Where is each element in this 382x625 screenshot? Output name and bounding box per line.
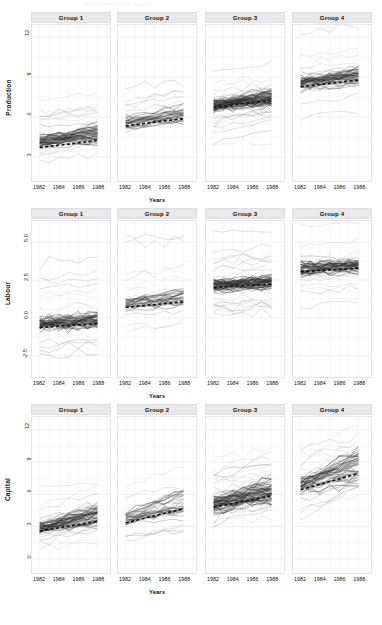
y-axis-title: Production: [2, 12, 14, 182]
x-axis-title: Years: [117, 393, 197, 399]
panel-labour-group-1[interactable]: Group 11982198419861988: [31, 208, 111, 390]
plot-area[interactable]: [31, 220, 111, 378]
y-tick-label: 6: [14, 111, 30, 119]
x-axis-title: Years: [117, 589, 197, 595]
y-axis-title-text: Labour: [5, 281, 12, 304]
panel-strip-label: Group 1: [59, 15, 83, 21]
panel-row-production: Production12963Group 11982198419861988Gr…: [0, 12, 382, 220]
panel-production-group-4[interactable]: Group 41982198419861988: [292, 12, 372, 194]
x-tick-label: 1982: [119, 184, 131, 190]
y-tick-label: 0: [14, 554, 30, 562]
x-tick-label: 1988: [353, 576, 365, 582]
x-tick-label: 1982: [119, 576, 131, 582]
panel-strip-label: Group 1: [59, 211, 83, 217]
x-tick-label: 1982: [33, 576, 45, 582]
panel-labour-group-3[interactable]: Group 31982198419861988: [205, 208, 285, 390]
plot-area[interactable]: [292, 220, 372, 378]
panel-strip-header: Group 1: [31, 12, 111, 23]
panel-labour-group-4[interactable]: Group 41982198419861988: [292, 208, 372, 390]
x-axis-ticks: 1982198419861988: [292, 576, 372, 586]
figure-ghost-header: Production Labour Capital: [84, 1, 274, 8]
plot-area[interactable]: [205, 416, 285, 574]
trellis-figure: Production Labour Capital Production1296…: [0, 0, 382, 625]
panel-strip-header: Group 2: [117, 404, 197, 415]
y-tick-label: 6: [14, 488, 30, 496]
y-axis-ticks: 129630: [14, 414, 30, 574]
plot-area[interactable]: [31, 416, 111, 574]
panel-strip-label: Group 3: [233, 15, 257, 21]
plot-area[interactable]: [117, 220, 197, 378]
panel-strip-header: Group 3: [205, 404, 285, 415]
y-tick-label: 12: [14, 30, 30, 38]
y-axis-title-text: Production: [5, 79, 12, 115]
x-tick-label: 1984: [139, 184, 151, 190]
x-tick-label: 1986: [72, 576, 84, 582]
x-tick-label: 1982: [294, 576, 306, 582]
panel-capital-group-1[interactable]: Group 11982198419861988: [31, 404, 111, 586]
panel-strip-header: Group 4: [292, 404, 372, 415]
x-tick-label: 1988: [92, 576, 104, 582]
x-axis-ticks: 1982198419861988: [117, 576, 197, 586]
x-axis-ticks: 1982198419861988: [31, 380, 111, 390]
x-axis-title: Years: [117, 197, 197, 203]
panel-production-group-3[interactable]: Group 31982198419861988: [205, 12, 285, 194]
x-tick-label: 1988: [353, 380, 365, 386]
x-tick-label: 1982: [207, 184, 219, 190]
x-tick-label: 1986: [158, 380, 170, 386]
x-tick-label: 1984: [314, 184, 326, 190]
y-tick-label: 5.0: [14, 235, 30, 243]
panel-strip-header: Group 4: [292, 208, 372, 219]
x-tick-label: 1984: [227, 576, 239, 582]
panel-strip-header: Group 2: [117, 12, 197, 23]
plot-area[interactable]: [117, 24, 197, 182]
x-axis-ticks: 1982198419861988: [292, 380, 372, 390]
x-axis-ticks: 1982198419861988: [117, 380, 197, 390]
x-tick-label: 1982: [33, 184, 45, 190]
x-tick-label: 1986: [158, 576, 170, 582]
x-tick-label: 1984: [139, 380, 151, 386]
plot-area[interactable]: [292, 416, 372, 574]
y-tick-label: 9: [14, 456, 30, 464]
panel-strip-label: Group 4: [320, 211, 344, 217]
x-axis-ticks: 1982198419861988: [205, 576, 285, 586]
y-tick-label: 0.0: [14, 312, 30, 320]
panel-row-capital: Capital129630Group 11982198419861988Grou…: [0, 404, 382, 612]
x-tick-label: 1988: [92, 380, 104, 386]
panel-strip-header: Group 4: [292, 12, 372, 23]
panel-strip-label: Group 4: [320, 15, 344, 21]
x-tick-label: 1988: [266, 576, 278, 582]
x-tick-label: 1984: [53, 380, 65, 386]
x-axis-ticks: 1982198419861988: [31, 576, 111, 586]
panel-capital-group-2[interactable]: Group 21982198419861988: [117, 404, 197, 586]
panel-strip-label: Group 4: [320, 407, 344, 413]
x-axis-ticks: 1982198419861988: [205, 184, 285, 194]
plot-area[interactable]: [205, 220, 285, 378]
y-tick-label: 3: [14, 521, 30, 529]
panel-labour-group-2[interactable]: Group 21982198419861988: [117, 208, 197, 390]
panel-strip-label: Group 3: [233, 211, 257, 217]
panel-strip-label: Group 2: [145, 407, 169, 413]
x-tick-label: 1988: [178, 576, 190, 582]
x-tick-label: 1984: [227, 184, 239, 190]
plot-area[interactable]: [31, 24, 111, 182]
plot-area[interactable]: [117, 416, 197, 574]
plot-area[interactable]: [292, 24, 372, 182]
panel-strip-label: Group 2: [145, 211, 169, 217]
x-tick-label: 1984: [139, 576, 151, 582]
x-axis-ticks: 1982198419861988: [117, 184, 197, 194]
x-tick-label: 1984: [53, 576, 65, 582]
x-axis-ticks: 1982198419861988: [292, 184, 372, 194]
panel-production-group-1[interactable]: Group 11982198419861988: [31, 12, 111, 194]
y-tick-label: 2.5: [14, 274, 30, 282]
panel-capital-group-4[interactable]: Group 41982198419861988: [292, 404, 372, 586]
panel-strip-label: Group 1: [59, 407, 83, 413]
x-tick-label: 1986: [333, 184, 345, 190]
panel-production-group-2[interactable]: Group 21982198419861988: [117, 12, 197, 194]
x-tick-label: 1988: [178, 184, 190, 190]
plot-area[interactable]: [205, 24, 285, 182]
x-tick-label: 1982: [294, 184, 306, 190]
panel-capital-group-3[interactable]: Group 31982198419861988: [205, 404, 285, 586]
y-axis-ticks: 12963: [14, 22, 30, 182]
panel-strip-label: Group 2: [145, 15, 169, 21]
y-tick-label: 3: [14, 152, 30, 160]
